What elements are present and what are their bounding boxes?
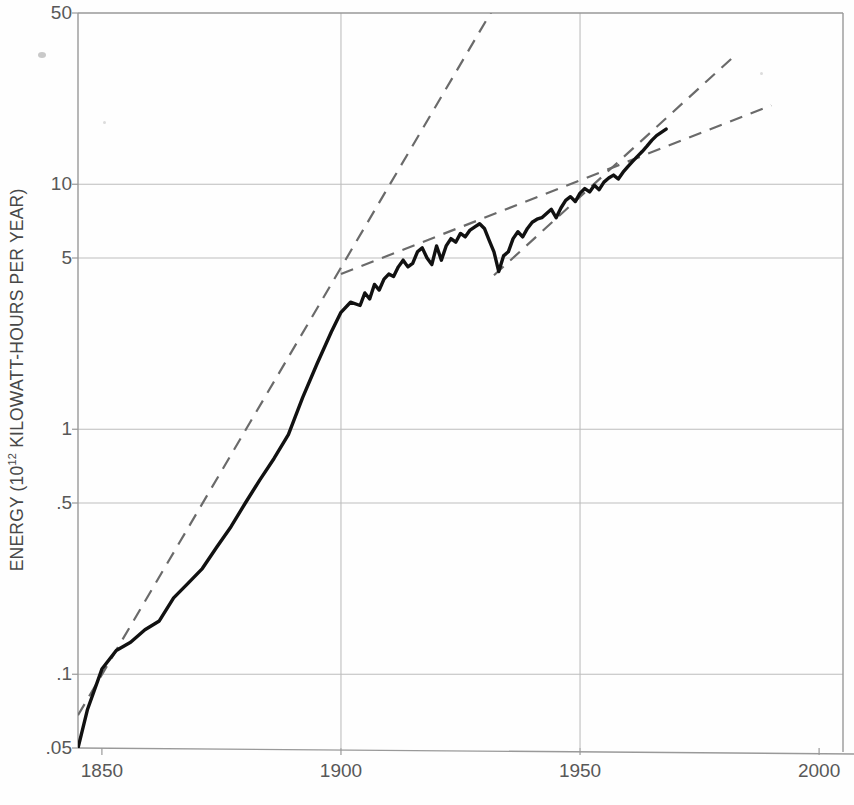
trend-lines	[78, 0, 771, 715]
scan-speck-3	[760, 72, 763, 75]
x-tick-label: 2000	[798, 760, 840, 782]
trend-line-early-growth-trend	[78, 0, 499, 715]
axis-bottom	[78, 748, 854, 754]
data-series	[78, 129, 666, 748]
x-tick-label: 1900	[320, 760, 362, 782]
scan-speck-2	[103, 121, 106, 124]
axis-frame	[72, 13, 854, 755]
plot-area	[0, 0, 854, 805]
x-tick-label: 1850	[81, 760, 123, 782]
chart-figure: ENERGY (1012 KILOWATT-HOURS PER YEAR) 50…	[0, 0, 854, 805]
grid-lines	[78, 13, 843, 748]
trend-line-middle-growth-trend	[341, 105, 771, 274]
series-line	[78, 129, 666, 748]
scan-speck-1	[38, 52, 46, 58]
x-tick-label: 1950	[559, 760, 601, 782]
trend-line-late-growth-trend	[494, 57, 733, 275]
